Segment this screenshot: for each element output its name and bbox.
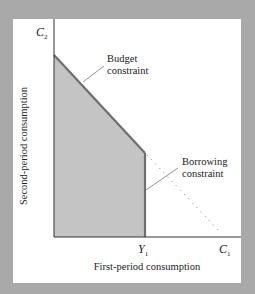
borrowing-annotation-line2: constraint <box>182 168 223 179</box>
borrowing-leader-line <box>146 168 178 190</box>
x-axis-symbol: C1 <box>219 242 231 258</box>
x-axis-label: First-period consumption <box>94 261 201 272</box>
budget-annotation-line1: Budget <box>107 53 137 64</box>
budget-leader-line <box>83 66 104 82</box>
y-axis-label: Second-period consumption <box>18 86 29 205</box>
feasible-region <box>54 55 145 237</box>
budget-constraint-diagram: C2 C1 Y1 Second-period consumption First… <box>0 0 255 294</box>
budget-annotation-line2: constraint <box>107 65 148 76</box>
borrowing-annotation-line1: Borrowing <box>182 156 228 167</box>
y-axis-symbol: C2 <box>36 25 48 41</box>
income-symbol: Y1 <box>138 242 149 258</box>
